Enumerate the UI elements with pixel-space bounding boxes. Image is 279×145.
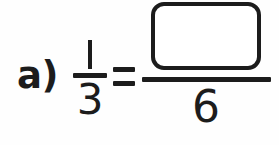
numerator-container: 1	[72, 34, 108, 70]
equals-bar-top	[113, 67, 135, 72]
fraction-one-third: 1 3	[72, 34, 108, 122]
problem-label: a)	[17, 57, 58, 94]
answer-box-input[interactable]	[151, 2, 261, 70]
equals-sign	[113, 67, 135, 86]
denominator-three: 3	[72, 78, 108, 122]
numerator-one: 1	[88, 40, 92, 69]
fraction-box-over-six: 6	[141, 2, 271, 130]
worksheet-problem: a) 1 3 6	[0, 0, 279, 145]
denominator-six: 6	[141, 84, 271, 130]
equals-bar-bottom	[113, 81, 135, 86]
